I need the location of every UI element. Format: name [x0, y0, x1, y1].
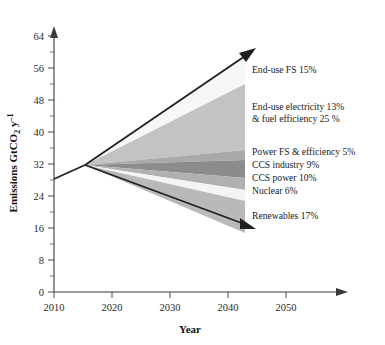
- emissions-wedge-chart: 0 8 16 24 32 40 48 56 64 2010 2020 2030 …: [0, 0, 385, 345]
- x-tick-label-2010: 2010: [44, 302, 65, 313]
- label-renewables: Renewables 17%: [252, 210, 318, 221]
- label-end-use-electricity: End-use electricity 13%: [252, 101, 344, 112]
- chart-canvas: 0 8 16 24 32 40 48 56 64 2010 2020 2030 …: [0, 0, 385, 345]
- x-tick-label-2050: 2050: [276, 302, 297, 313]
- x-tick-labels: 2010 2020 2030 2040 2050: [44, 302, 297, 313]
- label-fuel-efficiency: & fuel efficiency 25 %: [252, 113, 340, 124]
- label-ccs-industry: CCS industry 9%: [252, 159, 319, 170]
- y-tick-label-8: 8: [39, 255, 44, 266]
- y-axis-title-superscript: –1: [6, 114, 15, 123]
- label-ccs-power: CCS power 10%: [252, 172, 317, 183]
- label-nuclear: Nuclear 6%: [252, 185, 298, 196]
- y-tick-label-64: 64: [34, 31, 45, 42]
- y-tick-label-24: 24: [34, 191, 45, 202]
- x-tick-label-2040: 2040: [218, 302, 239, 313]
- y-tick-labels: 0 8 16 24 32 40 48 56 64: [34, 31, 45, 298]
- y-tick-label-48: 48: [34, 95, 45, 106]
- y-tick-label-16: 16: [34, 223, 45, 234]
- y-tick-label-0: 0: [39, 287, 44, 298]
- y-axis-title: Emissions GtCO2 y–1: [6, 114, 22, 213]
- y-tick-label-56: 56: [34, 63, 45, 74]
- historical-emissions-line: [54, 165, 85, 179]
- x-tick-label-2020: 2020: [102, 302, 123, 313]
- x-tick-label-2030: 2030: [160, 302, 181, 313]
- x-ticks: [54, 292, 286, 298]
- label-end-use-fs: End-use FS 15%: [252, 64, 317, 75]
- wedge-bands: [85, 57, 245, 233]
- label-power-fs-efficiency: Power FS & efficiency 5%: [252, 146, 355, 157]
- wedge-annotations: End-use FS 15% End-use electricity 13% &…: [252, 64, 355, 221]
- y-tick-label-40: 40: [34, 127, 45, 138]
- y-tick-label-32: 32: [34, 159, 45, 170]
- x-axis-arrowhead: [336, 288, 348, 296]
- y-axis-title-main: Emissions GtCO: [7, 133, 19, 212]
- svg-text:Emissions GtCO2 y–1: Emissions GtCO2 y–1: [6, 114, 22, 213]
- x-axis-title: Year: [179, 323, 201, 335]
- y-major-ticks: [48, 36, 54, 292]
